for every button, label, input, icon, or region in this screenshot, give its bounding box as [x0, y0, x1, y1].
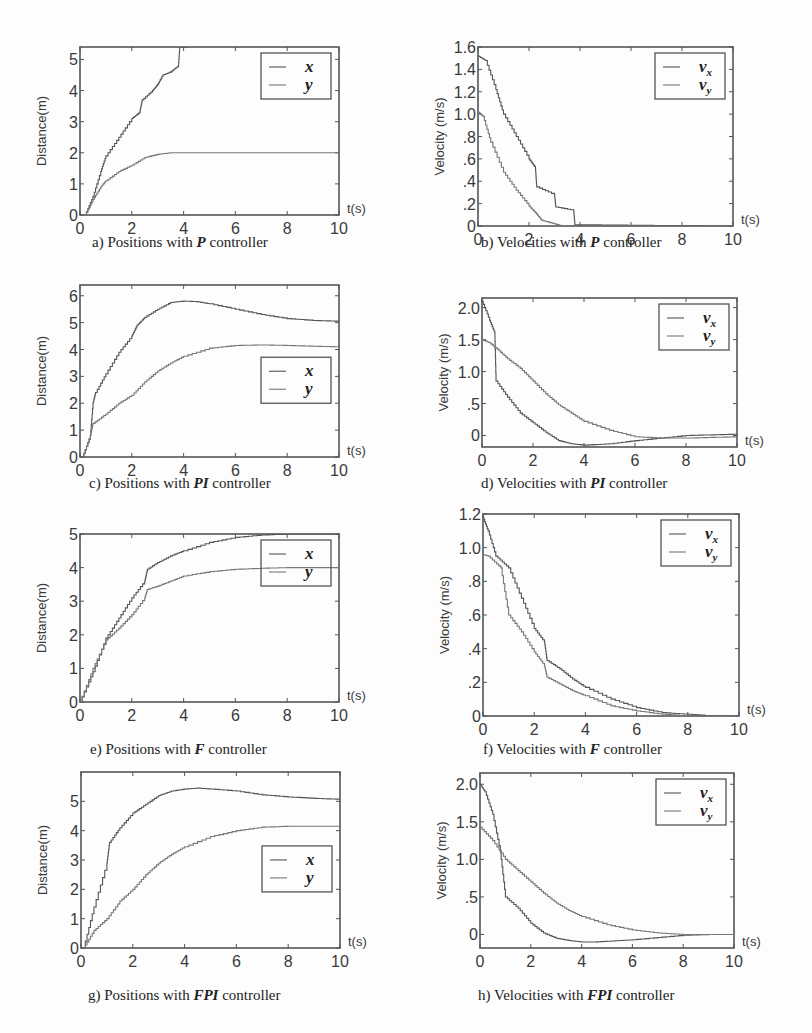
x-tick-label: 8: [283, 707, 292, 724]
y-axis-label: Distance(m): [35, 825, 50, 895]
y-tick-label: 0: [70, 940, 79, 957]
series-x: [84, 788, 340, 948]
x-tick-label: 4: [580, 452, 589, 469]
legend: xy: [262, 846, 332, 892]
y-tick-label: 0: [69, 694, 78, 711]
y-tick-label: 3: [69, 368, 78, 385]
x-tick-label: 10: [330, 707, 348, 724]
x-tick-label: 10: [330, 220, 348, 237]
caption-g: g) Positions with FPI controller: [88, 987, 281, 1004]
series-vy: [480, 827, 734, 934]
series-vy: [478, 112, 733, 226]
y-axis-label: Distance(m): [34, 336, 49, 406]
chart-svg: 02468100.2.4.6.81.01.2Velocity (m/s)t(s)…: [423, 494, 799, 746]
y-tick-label: 2: [69, 145, 78, 162]
y-tick-label: 2.0: [458, 300, 480, 317]
y-tick-label: 1.2: [454, 84, 476, 101]
chart-svg: 0246810012345Distance(m)t(s)xy: [20, 27, 399, 245]
x-tick-label: 10: [730, 721, 748, 738]
x-tick-label: 6: [232, 953, 241, 970]
y-tick-label: .2: [463, 196, 476, 213]
x-axis-label: t(s): [348, 934, 367, 949]
y-tick-label: 0: [469, 926, 478, 943]
x-axis-label: t(s): [347, 201, 366, 216]
chart-svg: 02468100.51.01.52.0Velocity (m/s)t(s)vxv…: [422, 278, 797, 477]
series-vy: [482, 340, 737, 438]
plot-frame: [480, 773, 734, 948]
x-tick-label: 0: [478, 452, 487, 469]
y-axis-label: Distance(m): [34, 96, 49, 166]
series-vx: [478, 56, 733, 226]
x-tick-label: 8: [284, 953, 293, 970]
y-tick-label: 4: [69, 560, 78, 577]
y-tick-label: .4: [468, 641, 481, 658]
y-tick-label: 0: [471, 427, 480, 444]
legend-label: y: [303, 75, 313, 94]
y-tick-label: 4: [69, 83, 78, 100]
legend: vxvy: [655, 53, 725, 99]
y-tick-label: 1.4: [454, 61, 476, 78]
x-axis-label: t(s): [741, 212, 760, 227]
chart-svg: 0246810012345Distance(m)t(s)xy: [21, 752, 400, 978]
y-tick-label: 1: [69, 422, 78, 439]
x-tick-label: 10: [724, 231, 742, 248]
y-tick-label: 1.5: [458, 332, 480, 349]
legend-label: vy: [703, 326, 716, 347]
y-tick-label: 1: [69, 176, 78, 193]
y-tick-label: .8: [463, 129, 476, 146]
y-tick-label: 2: [70, 881, 79, 898]
x-tick-label: 6: [632, 721, 641, 738]
y-tick-label: 1.6: [454, 39, 476, 56]
y-tick-label: 3: [69, 114, 78, 131]
y-tick-label: .2: [468, 674, 481, 691]
y-tick-label: 4: [70, 823, 79, 840]
series-y: [80, 568, 339, 702]
legend: vxvy: [661, 520, 731, 566]
y-axis-label: Velocity (m/s): [436, 333, 451, 411]
legend-label: x: [304, 544, 314, 563]
legend: xy: [261, 540, 331, 586]
legend: vxvy: [659, 304, 729, 350]
legend-label: x: [304, 361, 314, 380]
series-vy: [483, 554, 739, 716]
y-axis-label: Velocity (m/s): [432, 97, 447, 175]
y-axis-label: Velocity (m/s): [437, 576, 452, 654]
x-tick-label: 4: [179, 707, 188, 724]
y-tick-label: .5: [467, 396, 480, 413]
x-tick-label: 8: [683, 721, 692, 738]
y-tick-label: 1.0: [459, 540, 481, 557]
caption-f: f) Velocities with F controller: [483, 741, 662, 758]
y-tick-label: 3: [70, 852, 79, 869]
x-tick-label: 2: [526, 953, 535, 970]
x-tick-label: 8: [283, 462, 292, 479]
x-axis-label: t(s): [347, 688, 366, 703]
y-tick-label: 3: [69, 593, 78, 610]
x-tick-label: 10: [725, 953, 743, 970]
chart-svg: 02468100123456Distance(m)t(s)xy: [20, 265, 399, 487]
y-tick-label: 2: [69, 395, 78, 412]
x-axis-label: t(s): [745, 433, 764, 448]
series-x: [83, 301, 339, 457]
y-tick-label: .5: [465, 889, 478, 906]
x-tick-label: 0: [476, 953, 485, 970]
x-tick-label: 10: [330, 462, 348, 479]
y-tick-label: 1.5: [456, 814, 478, 831]
y-tick-label: .4: [463, 173, 476, 190]
x-tick-label: 8: [678, 231, 687, 248]
x-tick-label: 2: [530, 721, 539, 738]
series-y: [85, 153, 339, 215]
chart-svg: 0246810012345Distance(m)t(s)xy: [20, 514, 399, 732]
series-x: [80, 534, 339, 702]
x-tick-label: 2: [529, 452, 538, 469]
series-y: [83, 345, 339, 457]
x-tick-label: 6: [231, 707, 240, 724]
legend-label: y: [303, 379, 313, 398]
x-tick-label: 2: [128, 953, 137, 970]
legend-label: y: [303, 562, 313, 581]
y-tick-label: 1: [70, 911, 79, 928]
x-tick-label: 4: [581, 721, 590, 738]
caption-d: d) Velocities with PI controller: [481, 475, 667, 492]
y-tick-label: 5: [69, 315, 78, 332]
caption-b: b) Velocities with P controller: [481, 234, 662, 251]
x-axis-label: t(s): [347, 443, 366, 458]
